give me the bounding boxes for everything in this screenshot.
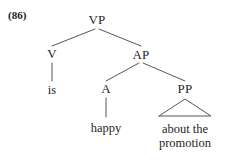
- leaf-pp-line-2: promotion: [159, 136, 211, 150]
- node-pp: PP: [178, 81, 193, 97]
- leaf-is: is: [48, 83, 56, 97]
- node-a: A: [101, 81, 111, 97]
- edge-ap-a: [106, 63, 139, 81]
- leaf-pp-line-1: about the: [159, 122, 211, 136]
- edge-ap-pp: [143, 63, 185, 81]
- figure-canvas: (86) VP V AP A PP is happy about the pro…: [0, 0, 233, 162]
- leaf-about-the-promotion: about the promotion: [159, 122, 211, 150]
- edge-vp-v: [52, 29, 95, 46]
- node-v: V: [47, 46, 57, 62]
- node-ap: AP: [132, 47, 149, 63]
- node-vp: VP: [88, 12, 105, 28]
- leaf-happy-line-1: happy: [91, 121, 122, 135]
- leaf-happy: happy: [91, 121, 122, 135]
- leaf-is-line-1: is: [48, 83, 56, 97]
- edge-vp-ap: [99, 29, 141, 46]
- pp-triangle-icon: [159, 99, 211, 116]
